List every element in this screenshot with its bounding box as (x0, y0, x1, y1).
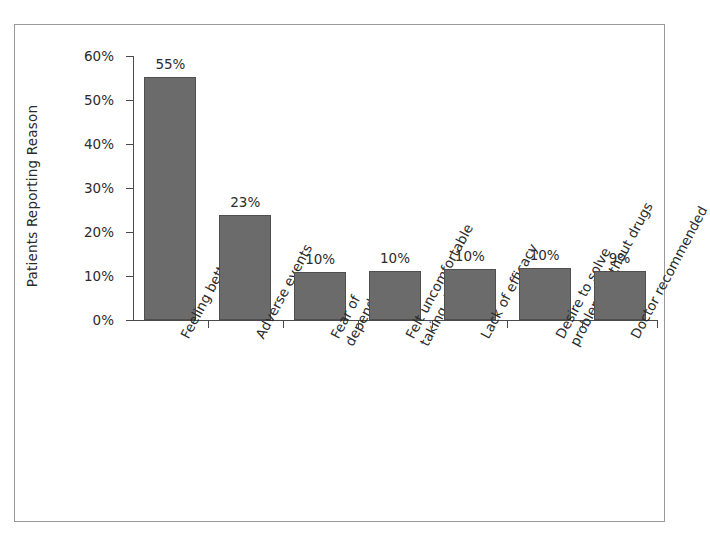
y-axis-tick-label: 20% (60, 224, 114, 240)
x-axis-tick-mark (507, 320, 508, 328)
bar-value-label: 10% (380, 250, 410, 266)
y-axis-tick-label: 60% (60, 48, 114, 64)
y-axis-tick-label: 50% (60, 92, 114, 108)
y-axis-tick-mark (126, 100, 133, 101)
y-axis-tick-mark (126, 56, 133, 57)
bar-value-label: 55% (155, 56, 185, 72)
x-axis-tick-mark (358, 320, 359, 328)
y-axis-tick-mark (126, 188, 133, 189)
x-axis-tick-mark (432, 320, 433, 328)
bar-value-label: 9% (609, 250, 630, 266)
bar (144, 77, 196, 320)
y-axis-tick-label: 10% (60, 268, 114, 284)
y-axis-tick-label: 0% (60, 312, 114, 328)
x-axis-tick-mark (283, 320, 284, 328)
x-axis-end-tick (657, 320, 658, 328)
y-axis-line (133, 56, 134, 320)
y-axis-tick-mark (126, 144, 133, 145)
bar (219, 215, 271, 320)
y-axis-tick-mark (126, 320, 133, 321)
y-axis-tick-mark (126, 276, 133, 277)
bar-value-label: 10% (455, 248, 485, 264)
bar-value-label: 10% (530, 247, 560, 263)
bar-value-label: 10% (305, 251, 335, 267)
y-axis-tick-label: 40% (60, 136, 114, 152)
bar-value-label: 23% (230, 194, 260, 210)
x-axis-tick-mark (582, 320, 583, 328)
y-axis-tick-label: 30% (60, 180, 114, 196)
y-axis-tick-mark (126, 232, 133, 233)
x-axis-tick-mark (208, 320, 209, 328)
